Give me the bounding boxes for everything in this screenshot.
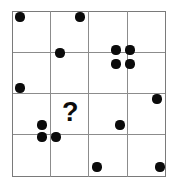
dot-r2c1 <box>15 83 24 92</box>
dot-r3c4 <box>152 94 161 103</box>
grid-line-vertical-4 <box>165 11 166 177</box>
dot-cluster-br <box>125 59 134 68</box>
dot-cluster-bl <box>111 59 120 68</box>
dot-cluster-tr <box>125 45 134 54</box>
dot-r4c2b <box>51 132 60 141</box>
grid-line-vertical-3 <box>127 11 128 177</box>
dot-r3c2 <box>37 120 46 129</box>
dot-r4c4 <box>155 162 164 171</box>
dot-r1c1 <box>15 12 24 21</box>
dot-r1c2 <box>75 12 84 21</box>
dot-cluster-tl <box>111 45 120 54</box>
dot-r4c2a <box>37 132 46 141</box>
dot-r2c2 <box>55 48 64 57</box>
puzzle-grid <box>0 0 175 183</box>
grid-line-vertical-0 <box>12 11 13 177</box>
grid-line-vertical-1 <box>50 11 51 177</box>
question-mark: ? <box>62 99 79 126</box>
grid-line-vertical-2 <box>88 11 89 177</box>
dot-r4c3 <box>92 162 101 171</box>
dot-r3c3 <box>115 120 124 129</box>
dot-grid-puzzle: ? <box>0 0 175 183</box>
